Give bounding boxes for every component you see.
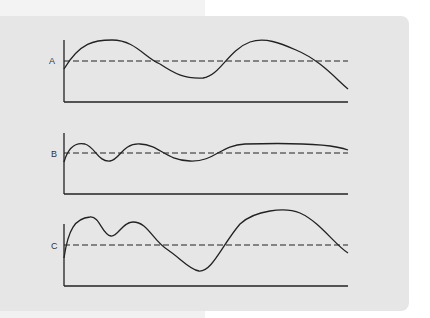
panel-b: B	[51, 133, 348, 194]
panel-a-label: A	[49, 56, 55, 66]
panel-b-label: B	[51, 149, 57, 159]
waveform-figure: A B C	[0, 0, 430, 318]
panel-c-label: C	[51, 241, 58, 251]
panel-c-curve	[64, 210, 348, 271]
panel-a-curve	[64, 40, 348, 89]
panel-a: A	[49, 40, 348, 102]
panel-c: C	[51, 210, 348, 286]
panel-b-curve	[64, 144, 348, 162]
